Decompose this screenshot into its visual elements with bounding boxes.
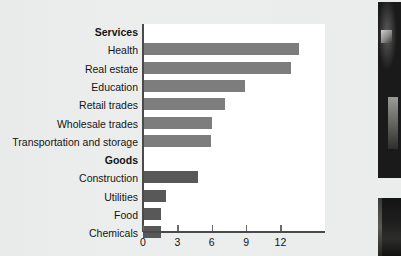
bar-health bbox=[143, 43, 299, 55]
x-tick-0 bbox=[143, 225, 144, 231]
figure-root: ServicesHealthReal estateEducationRetail… bbox=[0, 0, 401, 256]
x-tick-label-12: 12 bbox=[275, 236, 287, 248]
group-heading-goods: Goods bbox=[0, 154, 138, 166]
x-tick-label-9: 9 bbox=[243, 236, 249, 248]
photo-fragment-top bbox=[378, 2, 401, 178]
category-label-transportation-and-storage: Transportation and storage bbox=[0, 136, 138, 148]
bar-education bbox=[143, 80, 245, 92]
x-tick-3 bbox=[177, 225, 178, 231]
category-label-utilities: Utilities bbox=[0, 191, 138, 203]
horizontal-bar-chart: ServicesHealthReal estateEducationRetail… bbox=[0, 0, 340, 256]
category-label-construction: Construction bbox=[0, 172, 138, 184]
bar-construction bbox=[143, 171, 198, 183]
x-axis-line bbox=[143, 231, 325, 233]
category-label-education: Education bbox=[0, 81, 138, 93]
bar-retail-trades bbox=[143, 98, 225, 110]
bar-wholesale-trades bbox=[143, 117, 212, 129]
bar-food bbox=[143, 208, 161, 220]
bar-utilities bbox=[143, 190, 166, 202]
category-label-food: Food bbox=[0, 209, 138, 221]
x-tick-12 bbox=[280, 225, 281, 231]
category-label-chemicals: Chemicals bbox=[0, 227, 138, 239]
y-axis-line bbox=[142, 24, 144, 232]
category-label-wholesale-trades: Wholesale trades bbox=[0, 118, 138, 130]
x-tick-label-6: 6 bbox=[209, 236, 215, 248]
x-tick-label-0: 0 bbox=[140, 236, 146, 248]
category-label-retail-trades: Retail trades bbox=[0, 99, 138, 111]
photo-fragment-bottom bbox=[378, 198, 401, 256]
bar-real-estate bbox=[143, 62, 291, 74]
x-tick-label-3: 3 bbox=[174, 236, 180, 248]
category-label-real-estate: Real estate bbox=[0, 63, 138, 75]
category-label-health: Health bbox=[0, 44, 138, 56]
group-heading-services: Services bbox=[0, 26, 138, 38]
bar-transportation-and-storage bbox=[143, 135, 211, 147]
x-tick-6 bbox=[212, 225, 213, 231]
x-tick-9 bbox=[246, 225, 247, 231]
